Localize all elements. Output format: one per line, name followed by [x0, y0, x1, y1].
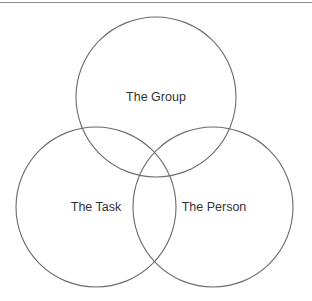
circle-the-person: The Person [133, 127, 293, 287]
circle-the-task: The Task [16, 127, 176, 287]
label-the-task: The Task [71, 200, 122, 214]
venn-diagram: The Group The Task The Person [0, 0, 312, 301]
circle-the-group: The Group [76, 17, 236, 177]
label-the-person: The Person [182, 200, 247, 214]
label-the-group: The Group [126, 90, 186, 104]
